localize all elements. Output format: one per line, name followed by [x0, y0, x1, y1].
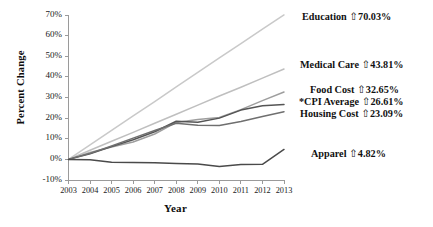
series-label-value: 23.09% — [370, 108, 403, 119]
series-line-housingcost — [69, 112, 285, 160]
series-label-value: 4.82% — [358, 148, 386, 159]
series-label-apparel: Apparel ⇧4.82% — [311, 148, 386, 159]
series-line-medicalcare — [69, 69, 285, 159]
series-label-value: 26.61% — [370, 96, 403, 107]
series-line-education — [69, 15, 285, 159]
up-arrow-icon: ⇧ — [361, 59, 370, 70]
series-label-foodcost: Food Cost ⇧32.65% — [310, 84, 399, 95]
y-axis-ticks — [65, 15, 69, 180]
series-line-apparel — [69, 149, 285, 166]
data-series-lines — [69, 15, 285, 166]
series-label-text: Apparel — [311, 148, 346, 159]
series-label-value: 70.03% — [358, 11, 391, 22]
series-label-text: Medical Care — [300, 59, 359, 70]
series-label-text: *CPI Average — [299, 96, 359, 107]
series-label-value: 43.81% — [370, 59, 403, 70]
up-arrow-icon: ⇧ — [361, 108, 370, 119]
series-label-text: Food Cost — [310, 84, 354, 95]
series-label-education: Education ⇧70.03% — [302, 11, 391, 22]
series-label-medicalcare: Medical Care ⇧43.81% — [300, 59, 403, 70]
series-label-value: 32.65% — [366, 84, 399, 95]
axes — [69, 15, 285, 181]
series-label-text: Education — [302, 11, 347, 22]
line-chart: Percent Change Year 70%60%50%40%30%20%10… — [0, 0, 433, 227]
series-line-cpiaverage — [69, 104, 285, 159]
up-arrow-icon: ⇧ — [349, 148, 358, 159]
series-label-housingcost: Housing Cost ⇧23.09% — [300, 108, 403, 119]
up-arrow-icon: ⇧ — [349, 11, 358, 22]
up-arrow-icon: ⇧ — [357, 84, 366, 95]
series-label-cpiaverage: *CPI Average ⇧26.61% — [299, 96, 404, 107]
series-label-text: Housing Cost — [300, 108, 359, 119]
